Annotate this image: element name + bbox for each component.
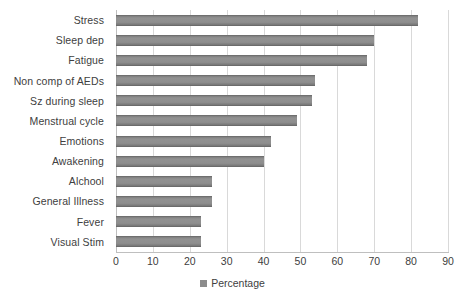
bar-sz-during-sleep <box>116 95 312 106</box>
y-axis-label: Sz during sleep <box>30 95 104 107</box>
y-axis-label-row: Sz during sleep <box>0 91 110 111</box>
bar-row <box>116 30 448 50</box>
y-axis-label: Alchool <box>69 175 104 187</box>
bar-general-illness <box>116 196 212 207</box>
x-axis-tick-30: 30 <box>221 255 233 267</box>
y-axis-category-labels: StressSleep depFatigueNon comp of AEDsSz… <box>0 10 110 252</box>
bar-sleep-dep <box>116 35 374 46</box>
y-axis-label: Sleep dep <box>56 34 104 46</box>
bar-fatigue <box>116 55 367 66</box>
x-axis-line <box>116 252 449 253</box>
bar-fever <box>116 216 201 227</box>
x-axis-tick-20: 20 <box>184 255 196 267</box>
y-axis-label-row: Sleep dep <box>0 30 110 50</box>
y-axis-label: Awakening <box>52 155 104 167</box>
bar-row <box>116 232 448 252</box>
y-axis-label-row: Emotions <box>0 131 110 151</box>
bar-chart: StressSleep depFatigueNon comp of AEDsSz… <box>0 0 465 304</box>
x-axis-tick-50: 50 <box>295 255 307 267</box>
bar-stress <box>116 15 418 26</box>
legend-swatch-percentage <box>200 280 207 287</box>
bar-awakening <box>116 156 264 167</box>
y-axis-label-row: General Illness <box>0 191 110 211</box>
x-axis-tick-90: 90 <box>442 255 454 267</box>
y-axis-label-row: Alchool <box>0 171 110 191</box>
bar-row <box>116 191 448 211</box>
y-axis-label: Fever <box>77 216 104 228</box>
bar-row <box>116 50 448 70</box>
x-axis-tick-60: 60 <box>331 255 343 267</box>
y-axis-label: Non comp of AEDs <box>14 75 104 87</box>
y-axis-label: Emotions <box>59 135 104 147</box>
y-axis-label-row: Stress <box>0 10 110 30</box>
x-axis-tick-0: 0 <box>113 255 119 267</box>
y-axis-label-row: Awakening <box>0 151 110 171</box>
y-axis-label-row: Menstrual cycle <box>0 111 110 131</box>
bar-row <box>116 212 448 232</box>
legend-label-percentage: Percentage <box>211 277 265 289</box>
bar-row <box>116 10 448 30</box>
bar-menstrual-cycle <box>116 115 297 126</box>
bar-row <box>116 111 448 131</box>
y-axis-label-row: Fatigue <box>0 50 110 70</box>
plot-area <box>116 10 448 252</box>
x-axis-tick-40: 40 <box>258 255 270 267</box>
bar-non-comp-of-aeds <box>116 75 315 86</box>
y-axis-label-row: Visual Stim <box>0 232 110 252</box>
x-axis-tick-80: 80 <box>405 255 417 267</box>
bar-row <box>116 151 448 171</box>
bar-row <box>116 171 448 191</box>
bar-row <box>116 131 448 151</box>
gridline-90 <box>448 10 449 252</box>
x-axis-tick-10: 10 <box>147 255 159 267</box>
y-axis-label: Visual Stim <box>51 236 104 248</box>
y-axis-label: Stress <box>74 14 104 26</box>
bar-visual-stim <box>116 236 201 247</box>
x-axis-tick-labels: 0102030405060708090 <box>116 255 448 271</box>
bar-emotions <box>116 136 271 147</box>
y-axis-label: General Illness <box>32 195 104 207</box>
bar-row <box>116 91 448 111</box>
bars-layer <box>116 10 448 252</box>
bar-alchool <box>116 176 212 187</box>
bar-row <box>116 70 448 90</box>
y-axis-label-row: Fever <box>0 212 110 232</box>
y-axis-label: Fatigue <box>68 54 104 66</box>
y-axis-label: Menstrual cycle <box>30 115 104 127</box>
y-axis-label-row: Non comp of AEDs <box>0 70 110 90</box>
chart-legend: Percentage <box>0 277 465 289</box>
x-axis-tick-70: 70 <box>368 255 380 267</box>
